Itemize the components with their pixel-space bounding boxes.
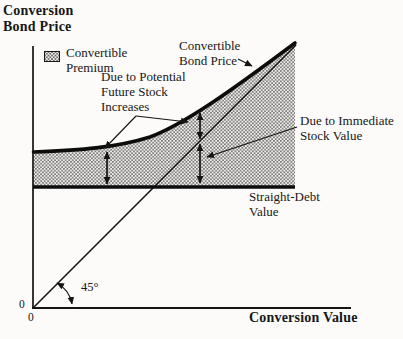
y-axis-title: Conversion Bond Price [3,3,73,35]
straight-debt-label: Straight-Debt Value [249,189,320,219]
legend-label-line1: Convertible [66,45,127,60]
immediate-value-label: Due to Immediate Stock Value [300,113,394,143]
convertible-premium-swatch [44,51,60,62]
origin-zero-y: 0 [19,298,25,310]
straight-debt-line1: Straight-Debt [249,189,320,204]
potential-line2: Future Stock [101,84,186,99]
bond-price-line2: Bond Price [179,53,240,68]
bond-price-line1: Convertible [179,38,240,53]
y-axis-title-line1: Conversion [3,3,73,19]
angle-arc [57,283,72,304]
immediate-line2: Stock Value [300,128,394,143]
angle-label: 45° [81,280,99,295]
potential-line3: Increases [101,99,186,114]
immediate-line1: Due to Immediate [300,113,394,128]
x-axis-title: Conversion Value [249,310,358,326]
leader-potential-right [136,116,188,122]
bond-price-curve-label: Convertible Bond Price [179,38,240,68]
y-axis-title-line2: Bond Price [3,19,73,35]
origin-zero-x: 0 [28,311,34,323]
convertible-bond-figure: Conversion Bond Price Convertible Premiu… [0,0,403,339]
potential-increase-label: Due to Potential Future Stock Increases [101,69,186,114]
straight-debt-line2: Value [249,204,320,219]
potential-line1: Due to Potential [101,69,186,84]
